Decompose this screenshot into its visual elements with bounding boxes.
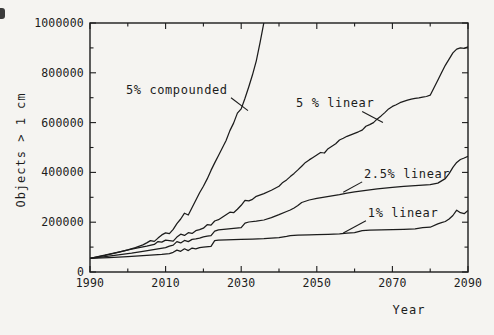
scanned-figure-page: 1990201020302050207020900200000400000600…: [0, 0, 494, 335]
y-tick-label-200000: 200000: [32, 216, 84, 228]
x-tick-label-2010: 2010: [144, 277, 188, 289]
x-axis-title: Year: [379, 303, 439, 317]
plot-frame: [90, 23, 468, 272]
series-curve-0: [90, 3, 268, 258]
y-tick-label-800000: 800000: [32, 67, 84, 79]
x-tick-label-2030: 2030: [219, 277, 263, 289]
y-tick-label-1000000: 1000000: [32, 17, 84, 29]
x-tick-label-2090: 2090: [446, 277, 490, 289]
series-label-2: 2.5% linear: [364, 168, 450, 181]
series-curve-1: [90, 47, 468, 259]
caption-fragment: Figure 11.: [37, 326, 490, 335]
x-tick-label-2050: 2050: [295, 277, 339, 289]
x-tick-label-1990: 1990: [68, 277, 112, 289]
series-label-0: 5% compounded: [126, 84, 228, 97]
series-label-3: 1% linear: [368, 207, 438, 220]
series-label-1: 5 % linear: [296, 97, 374, 110]
y-tick-label-0: 0: [32, 266, 84, 278]
annotation-leader-0: [231, 98, 248, 111]
y-tick-label-400000: 400000: [32, 166, 84, 178]
y-axis-title: Objects > 1 cm: [14, 70, 28, 230]
y-tick-label-600000: 600000: [32, 117, 84, 129]
x-tick-label-2070: 2070: [370, 277, 414, 289]
